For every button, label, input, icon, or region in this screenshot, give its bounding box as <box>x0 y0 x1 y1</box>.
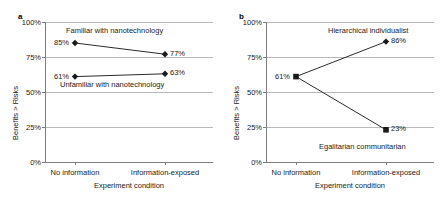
figure-container: a Benefits > Risks 100% 75% 50% 25% 0% <box>0 0 442 210</box>
x-axis-title: Experiment condition <box>266 181 434 190</box>
y-tick-label-100: 100% <box>14 18 41 27</box>
y-tick-label-100: 100% <box>235 18 262 27</box>
point-label-hierarchical-individualist-right: 86% <box>391 36 406 45</box>
x-tick-label-information-exposed: Information-exposed <box>117 168 213 177</box>
marker-egalitarian-communitarian-information-exposed <box>383 127 389 133</box>
marker-familiar-no-information <box>72 40 78 46</box>
point-label-egalitarian-communitarian-right: 23% <box>391 124 406 133</box>
plot-area: Familiar with nanotechnology Unfamiliar … <box>45 22 213 162</box>
marker-unfamiliar-no-information <box>72 73 78 79</box>
x-tick-label-no-information: No information <box>27 168 123 177</box>
marker-hierarchical-individualist-information-exposed <box>383 38 389 44</box>
point-label-shared-left: 61% <box>270 72 290 81</box>
chart-panel-a: a Benefits > Risks 100% 75% 50% 25% 0% <box>0 0 221 210</box>
point-label-familiar-left: 85% <box>50 38 69 47</box>
series-line-egalitarian-communitarian <box>296 77 386 130</box>
x-tick-label-no-information: No information <box>248 168 344 177</box>
point-label-unfamiliar-left: 61% <box>50 72 69 81</box>
series-label-unfamiliar: Unfamiliar with nanotechnology <box>60 80 164 89</box>
y-tick-label-50: 50% <box>235 88 262 97</box>
y-tick-label-75: 75% <box>235 53 262 62</box>
series-label-egalitarian-communitarian: Egalitarian communitarian <box>319 142 406 151</box>
y-tick-label-0: 0% <box>235 158 262 167</box>
x-tick-label-information-exposed: Information-exposed <box>338 168 434 177</box>
y-tick-label-50: 50% <box>14 88 41 97</box>
marker-shared-no-information <box>293 74 299 80</box>
y-tick-label-0: 0% <box>14 158 41 167</box>
series-label-familiar: Familiar with nanotechnology <box>66 26 163 35</box>
y-tick-label-25: 25% <box>235 123 262 132</box>
plot-area: Hierarchical individualist Egalitarian c… <box>266 22 434 162</box>
y-tick-label-75: 75% <box>14 53 41 62</box>
series-line-familiar <box>75 43 165 54</box>
series-lines <box>45 22 213 163</box>
marker-unfamiliar-information-exposed <box>162 71 168 77</box>
point-label-familiar-right: 77% <box>170 49 185 58</box>
chart-panel-b: b Benefits > Risks 100% 75% 50% 25% 0% <box>221 0 442 210</box>
marker-familiar-information-exposed <box>162 51 168 57</box>
x-axis-title: Experiment condition <box>45 181 213 190</box>
point-label-unfamiliar-right: 63% <box>170 68 185 77</box>
series-label-hierarchical-individualist: Hierarchical individualist <box>328 26 408 35</box>
series-line-unfamiliar <box>75 74 165 77</box>
series-line-hierarchical-individualist <box>296 42 386 77</box>
y-tick-label-25: 25% <box>14 123 41 132</box>
